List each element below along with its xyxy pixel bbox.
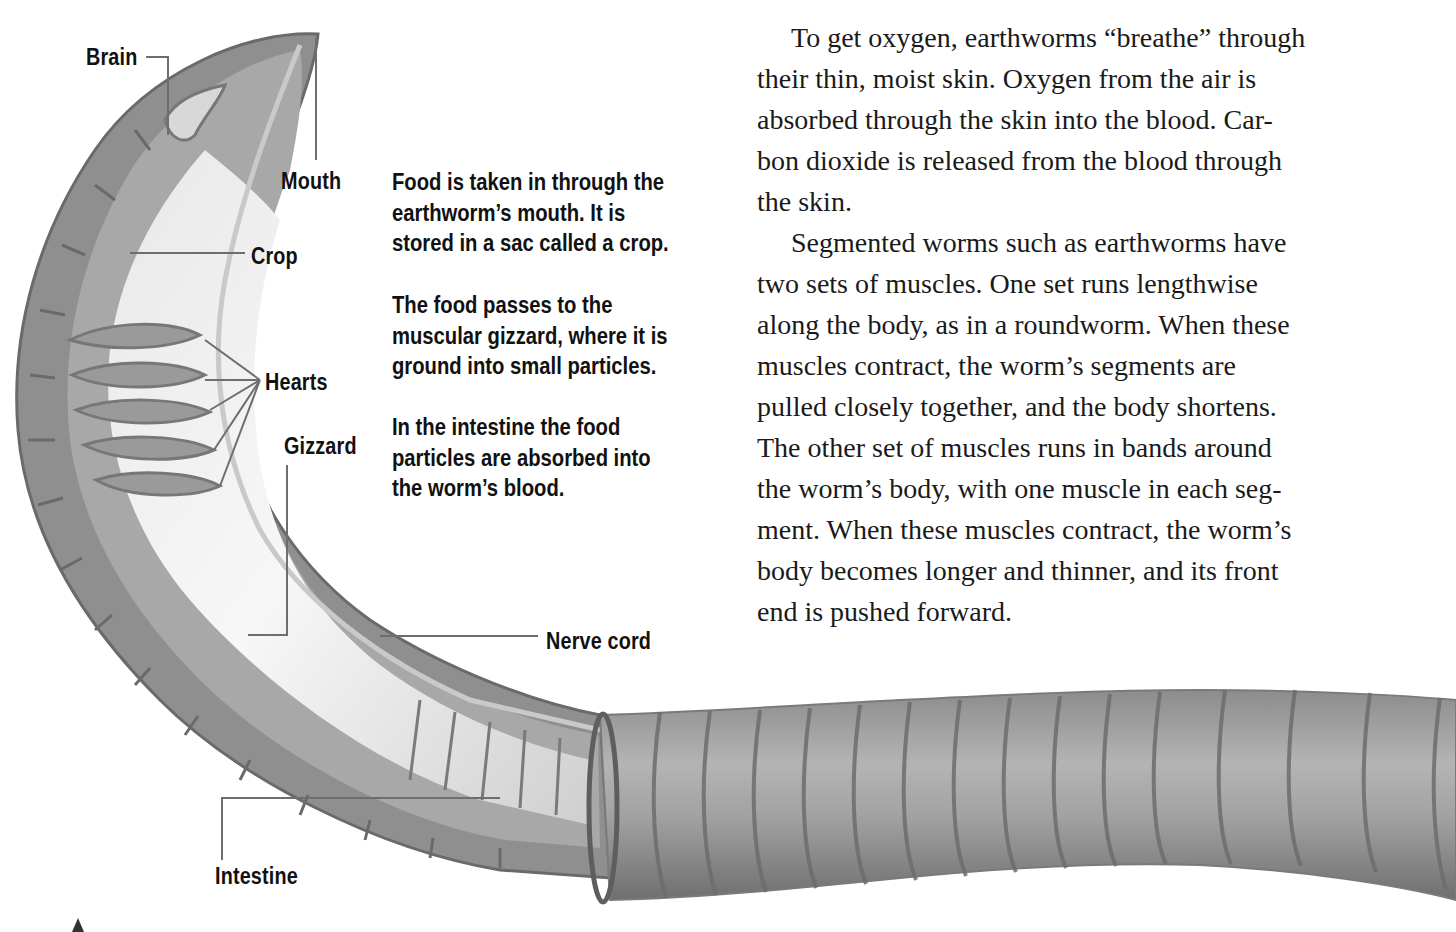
page-marker-triangle-icon — [72, 918, 84, 932]
worm-segmented-tail — [589, 690, 1456, 902]
caption-line: The food passes to the — [392, 290, 668, 321]
caption-line: muscular gizzard, where it is — [392, 321, 668, 352]
text-line: ment. When these muscles contract, the w… — [757, 509, 1447, 550]
text-line: end is pushed forward. — [757, 591, 1447, 632]
text-line: body becomes longer and thinner, and its… — [757, 550, 1447, 591]
caption-intestine: In the intestine the food particles are … — [392, 412, 651, 504]
text-line: pulled closely together, and the body sh… — [757, 386, 1447, 427]
paragraph-breathing: To get oxygen, earthworms “breathe” thro… — [757, 17, 1447, 222]
caption-line: Food is taken in through the — [392, 167, 669, 198]
text-line: The other set of muscles runs in bands a… — [757, 427, 1447, 468]
text-line: the skin. — [757, 181, 1447, 222]
label-mouth: Mouth — [281, 168, 341, 195]
caption-gizzard: The food passes to the muscular gizzard,… — [392, 290, 668, 382]
caption-line: stored in a sac called a crop. — [392, 228, 669, 259]
label-crop: Crop — [251, 243, 298, 270]
caption-line: particles are absorbed into — [392, 443, 651, 474]
caption-line: In the intestine the food — [392, 412, 651, 443]
caption-line: the worm’s blood. — [392, 473, 651, 504]
text-line: two sets of muscles. One set runs length… — [757, 263, 1447, 304]
text-line: bon dioxide is released from the blood t… — [757, 140, 1447, 181]
label-hearts: Hearts — [265, 369, 328, 396]
body-text: To get oxygen, earthworms “breathe” thro… — [757, 17, 1447, 632]
text-line: along the body, as in a roundworm. When … — [757, 304, 1447, 345]
label-brain: Brain — [86, 44, 137, 71]
text-line: absorbed through the skin into the blood… — [757, 99, 1447, 140]
caption-line: earthworm’s mouth. It is — [392, 198, 669, 229]
label-gizzard: Gizzard — [284, 433, 357, 460]
label-intestine: Intestine — [215, 863, 298, 890]
text-line: their thin, moist skin. Oxygen from the … — [757, 58, 1447, 99]
caption-line: ground into small particles. — [392, 351, 668, 382]
text-line: To get oxygen, earthworms “breathe” thro… — [757, 17, 1447, 58]
text-line: Segmented worms such as earthworms have — [757, 222, 1447, 263]
caption-mouth-crop: Food is taken in through the earthworm’s… — [392, 167, 669, 259]
text-line: the worm’s body, with one muscle in each… — [757, 468, 1447, 509]
text-line: muscles contract, the worm’s segments ar… — [757, 345, 1447, 386]
paragraph-muscles: Segmented worms such as earthworms have … — [757, 222, 1447, 632]
label-nerve-cord: Nerve cord — [546, 628, 651, 655]
